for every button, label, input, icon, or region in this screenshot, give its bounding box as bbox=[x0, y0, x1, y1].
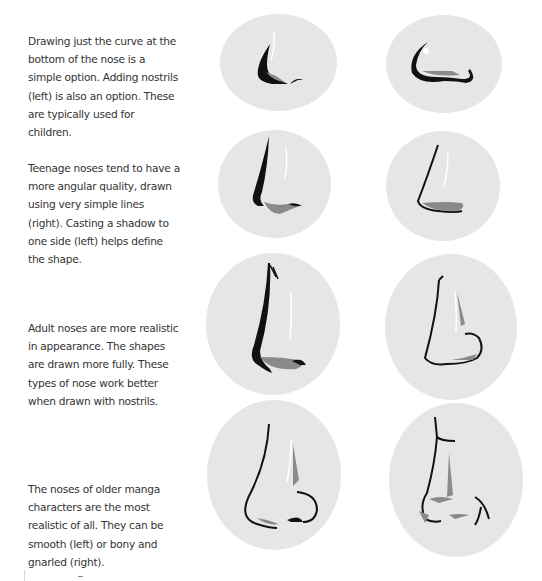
teen-nose-simple-lines-illustration bbox=[386, 131, 500, 241]
caption-adult: Adult noses are more realistic in appear… bbox=[28, 319, 180, 410]
older-nose-smooth-illustration bbox=[207, 400, 341, 550]
page-margin-rule bbox=[24, 570, 25, 581]
teen-nose-shadowed-illustration bbox=[218, 130, 331, 238]
nose-drawing-icon bbox=[386, 15, 502, 113]
nose-drawing-icon bbox=[218, 130, 331, 238]
child-nose-simple-curve-illustration bbox=[386, 15, 502, 113]
nose-drawing-icon bbox=[385, 254, 517, 400]
nose-drawing-icon bbox=[207, 400, 341, 550]
nose-drawing-icon bbox=[220, 14, 337, 111]
nose-drawing-icon bbox=[206, 253, 340, 395]
nose-drawing-icon bbox=[389, 403, 523, 557]
footer-mark bbox=[78, 576, 83, 577]
adult-nose-with-nostrils-illustration bbox=[385, 254, 517, 400]
older-nose-bony-gnarled-illustration bbox=[389, 403, 523, 557]
child-nose-with-nostrils-illustration bbox=[220, 14, 337, 111]
adult-nose-shadowed-illustration bbox=[206, 253, 340, 395]
nose-drawing-icon bbox=[386, 131, 500, 241]
caption-teenage: Teenage noses tend to have a more angula… bbox=[28, 159, 180, 268]
caption-children: Drawing just the curve at the bottom of … bbox=[28, 32, 180, 141]
caption-older: The noses of older manga characters are … bbox=[28, 480, 180, 571]
